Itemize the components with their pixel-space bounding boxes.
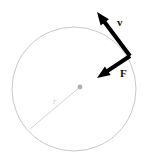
background	[0, 0, 153, 162]
physics-diagram-canvas: r v F	[0, 0, 153, 162]
circular-motion-diagram: r v F	[0, 0, 153, 162]
velocity-vector-label: v	[117, 16, 123, 28]
circle-center-dot	[78, 85, 83, 90]
force-vector-label: F	[120, 67, 127, 79]
